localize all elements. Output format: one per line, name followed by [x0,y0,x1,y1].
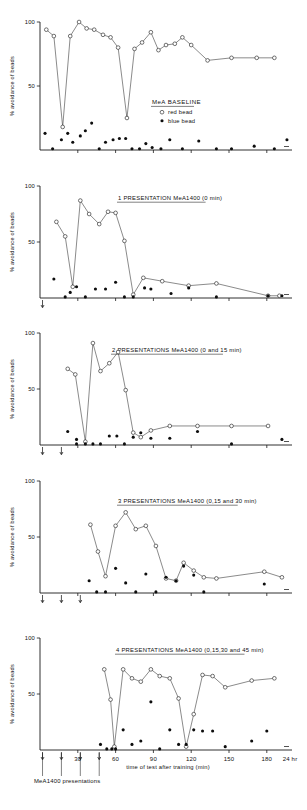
y-tick-label: 50 [28,83,35,89]
data-point-blue-bead [139,739,142,742]
data-point-red-bead [189,43,193,47]
x-tick-label: 30 [74,756,82,762]
data-point-blue-bead [253,145,256,148]
data-point-blue-bead [115,434,118,437]
data-point-blue-bead [84,442,87,445]
data-point-blue-bead [95,590,98,593]
y-tick-label: 100 [25,330,35,336]
panel-axes [40,22,292,150]
data-point-blue-bead [181,147,184,150]
data-point-red-bead [44,28,48,32]
data-point-blue-bead [285,138,288,141]
data-point-blue-bead [124,581,127,584]
data-point-blue-bead [265,729,268,732]
y-axis-label: % avoidance of beads [9,359,15,419]
data-point-blue-bead [230,442,233,445]
data-point-red-bead [140,41,144,45]
data-point-blue-bead [88,579,91,582]
data-point-red-bead [89,523,93,527]
y-tick-label: 50 [28,691,35,697]
data-point-blue-bead [196,430,199,433]
data-point-red-bead [71,285,75,289]
data-point-blue-bead [60,138,63,141]
data-point-blue-bead [263,582,266,585]
data-point-blue-bead [134,590,137,593]
data-point-red-bead [91,341,95,345]
data-point-blue-bead [122,728,125,731]
legend-label: red bead [168,109,193,115]
data-point-red-bead [109,698,113,702]
data-point-red-bead [66,367,70,371]
data-point-blue-bead [187,286,190,289]
data-point-blue-bead [124,137,127,140]
data-point-red-bead [196,424,200,428]
data-point-blue-bead [64,295,67,298]
data-point-red-bead [107,361,111,365]
data-point-red-bead [202,575,206,579]
data-point-red-bead [116,350,120,354]
data-point-red-bead [201,673,205,677]
data-point-blue-bead [168,728,171,731]
data-point-red-bead [104,574,108,578]
data-point-blue-bead [104,287,107,290]
data-point-blue-bead [138,147,141,150]
data-point-red-bead [250,679,254,683]
data-point-blue-bead [144,572,147,575]
data-point-red-bead [144,524,148,528]
panel-1: 10050% avoidance of beads1 PRESENTATION … [9,183,292,308]
data-point-blue-bead [280,438,283,441]
data-point-red-bead [87,212,91,216]
data-point-blue-bead [149,287,152,290]
data-point-blue-bead [139,431,142,434]
data-point-blue-bead [149,437,152,440]
data-point-blue-bead [185,743,188,746]
panel-title: 2 PRESENTATIONS MeA1400 (0 and 15 min) [112,347,242,353]
data-point-blue-bead [177,743,180,746]
data-point-blue-bead [94,287,97,290]
data-point-blue-bead [154,590,157,593]
data-point-red-bead [215,577,219,581]
data-point-blue-bead [168,437,171,440]
data-point-blue-bead [123,295,126,298]
data-point-blue-bead [159,147,162,150]
legend-title: MeA BASELINE [152,98,201,105]
data-point-red-bead [164,43,168,47]
data-point-blue-bead [75,442,78,445]
data-point-red-bead [157,48,161,52]
panel-title: 1 PRESENTATION MeA1400 (0 min) [118,195,222,201]
panel-title: 4 PRESENTATIONS MeA1400 (0,15,30 and 45 … [116,647,264,653]
data-point-red-bead [262,570,266,574]
data-point-red-bead [181,36,185,40]
data-point-red-bead [141,276,145,280]
data-point-red-bead [211,674,215,678]
x-axis-label: time of test after training (min) [126,764,210,770]
data-point-blue-bead [99,743,102,746]
data-point-blue-bead [192,728,195,731]
data-point-red-bead [173,42,177,46]
data-point-blue-bead [98,147,101,150]
data-point-red-bead [114,211,118,215]
data-point-red-bead [116,46,120,50]
data-point-red-bead [223,685,227,689]
data-point-blue-bead [280,294,283,297]
data-point-red-bead [109,36,113,40]
data-point-red-bead [215,282,219,286]
data-point-red-bead [85,27,89,31]
x-tick-label: 90 [150,756,158,762]
data-point-red-bead [280,575,284,579]
data-point-blue-bead [90,122,93,125]
data-point-red-bead [55,220,59,224]
legend: MeA BASELINEred beadblue bead [151,98,201,124]
data-point-blue-bead [143,286,146,289]
data-point-red-bead [130,676,134,680]
multi-panel-chart: 10050% avoidance of beads10050% avoidanc… [0,0,307,810]
panel-4: 10050% avoidance of beads4 PRESENTATIONS… [9,635,292,760]
data-point-red-bead [124,388,128,392]
data-point-blue-bead [75,438,78,441]
data-point-blue-bead [215,295,218,298]
data-point-blue-bead [84,129,87,132]
data-point-red-bead [134,527,138,531]
legend-marker-open-circle [160,110,164,114]
data-point-blue-bead [105,747,108,750]
data-point-red-bead [139,435,143,439]
